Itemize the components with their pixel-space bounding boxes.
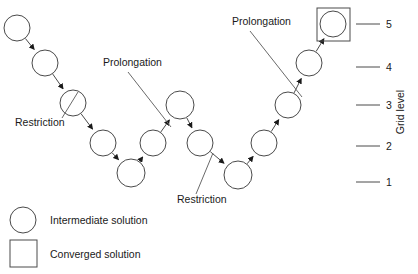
legend-circle-swatch	[10, 207, 36, 233]
legend-item-intermediate: Intermediate solution	[10, 207, 148, 233]
diagram-canvas: RestrictionProlongationRestrictionProlon…	[0, 0, 418, 274]
annotation-prolongation-middle-label: Prolongation	[103, 56, 162, 68]
intermediate-solution-node-6[interactable]	[140, 130, 166, 156]
multigrid-cycle-diagram: RestrictionProlongationRestrictionProlon…	[0, 0, 418, 274]
annotation-prolongation-top-label: Prolongation	[232, 15, 291, 27]
intermediate-solution-node-12[interactable]	[296, 50, 322, 76]
grid-level-tick-4-label: 4	[386, 61, 392, 73]
intermediate-solution-node-5[interactable]	[117, 159, 145, 187]
intermediate-solution-node-9[interactable]	[224, 161, 252, 189]
annotation-restriction-left-label: Restriction	[15, 116, 65, 128]
intermediate-solution-node-11[interactable]	[275, 92, 301, 118]
converged-solution-node[interactable]	[320, 11, 346, 37]
grid-level-axis: 54321Grid level	[356, 18, 406, 188]
edge-n1-n2	[25, 39, 34, 50]
annotation-prolongation-middle-leader-line	[128, 72, 171, 127]
intermediate-solution-node-4[interactable]	[90, 130, 116, 156]
annotation-restriction-right-leader-line	[196, 153, 213, 194]
edge-n6-n7	[161, 120, 169, 132]
intermediate-solution-node-1[interactable]	[4, 15, 30, 41]
edge-n10-n11	[271, 120, 278, 132]
grid-level-axis-title: Grid level	[394, 90, 406, 134]
annotation-prolongation-middle: Prolongation	[103, 56, 171, 127]
legend-item-converged: Converged solution	[10, 240, 141, 267]
grid-level-tick-2-label: 2	[386, 140, 392, 152]
edge-n2-n3	[53, 74, 63, 89]
annotation-prolongation-top: Prolongation	[232, 15, 302, 97]
intermediate-solution-node-8[interactable]	[187, 130, 213, 156]
intermediate-solution-node-10[interactable]	[251, 130, 277, 156]
annotation-restriction-right: Restriction	[177, 153, 227, 205]
edge-n7-n8	[187, 118, 192, 128]
intermediate-solution-node-3[interactable]	[60, 90, 86, 116]
nodes-layer	[4, 8, 350, 189]
edge-n9-n10	[247, 157, 253, 164]
edge-n4-n5	[112, 153, 118, 160]
legend: Intermediate solutionConverged solution	[10, 207, 148, 267]
legend-item-converged-label: Converged solution	[50, 248, 141, 260]
intermediate-solution-node-7[interactable]	[166, 91, 194, 119]
grid-level-tick-1-label: 1	[386, 176, 392, 188]
grid-level-tick-5-label: 5	[386, 18, 392, 30]
legend-item-intermediate-label: Intermediate solution	[50, 214, 148, 226]
edge-n3-n4	[81, 114, 92, 129]
legend-square-swatch	[10, 240, 37, 267]
edge-n5-n6	[140, 157, 143, 161]
intermediate-solution-node-2[interactable]	[32, 50, 58, 76]
grid-level-tick-3-label: 3	[386, 99, 392, 111]
annotation-restriction-right-label: Restriction	[177, 193, 227, 205]
annotation-prolongation-top-leader-line	[250, 31, 302, 97]
annotations-layer: RestrictionProlongationRestrictionProlon…	[15, 15, 302, 205]
